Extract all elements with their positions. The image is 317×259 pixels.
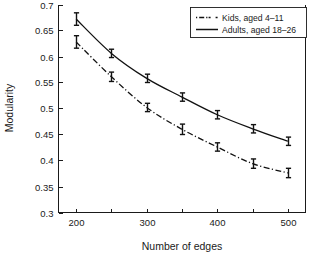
x-tick-label: 300 (140, 217, 156, 228)
y-tick-label: 0.45 (35, 129, 54, 140)
y-tick-label: 0.4 (40, 155, 53, 166)
y-tick-label: 0.5 (40, 103, 53, 114)
chart-figure: 0.30.350.40.450.50.550.60.650.7 20030040… (0, 0, 317, 259)
y-tick-label: 0.65 (35, 25, 54, 36)
x-axis-tick-labels: 200300400500 (69, 217, 297, 228)
x-tick-label: 400 (210, 217, 226, 228)
series-line-0 (76, 42, 288, 173)
x-axis-title: Number of edges (142, 240, 223, 252)
legend: Kids, aged 4–11 Adults, aged 18–26 (191, 8, 307, 38)
y-tick-label: 0.3 (40, 208, 53, 219)
x-axis-ticks (77, 209, 289, 213)
legend-label-kids: Kids, aged 4–11 (222, 13, 284, 23)
y-axis-title: Modularity (3, 83, 15, 132)
x-tick-label: 500 (281, 217, 297, 228)
y-tick-label: 0.35 (35, 182, 54, 193)
x-tick-label: 200 (69, 217, 85, 228)
y-axis-ticks (59, 6, 63, 214)
y-tick-label: 0.55 (35, 77, 54, 88)
y-tick-label: 0.6 (40, 52, 53, 63)
y-axis-tick-labels: 0.30.350.40.450.50.550.60.650.7 (35, 0, 54, 219)
line-chart-svg: 0.30.350.40.450.50.550.60.650.7 20030040… (0, 0, 317, 259)
y-tick-label: 0.7 (40, 0, 53, 11)
legend-label-adults: Adults, aged 18–26 (222, 25, 296, 35)
